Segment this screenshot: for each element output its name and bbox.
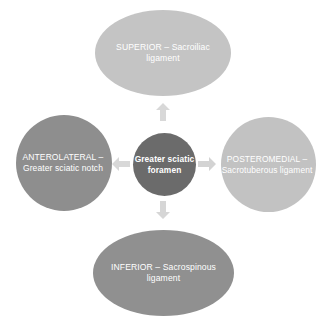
node-inferior[interactable]: INFERIOR – Sacrospinous ligament (93, 230, 234, 316)
node-superior-label: SUPERIOR – Sacroiliac ligament (95, 42, 231, 64)
node-inferior-label: INFERIOR – Sacrospinous ligament (93, 262, 234, 284)
node-center-label: Greater sciatic foramen (133, 154, 196, 176)
arrow-down-icon (155, 201, 171, 219)
node-posteromedial[interactable]: POSTEROMEDIAL – Sacrotuberous ligament (221, 117, 316, 212)
node-superior[interactable]: SUPERIOR – Sacroiliac ligament (95, 10, 231, 96)
node-anterolateral-label: ANTEROLATERAL – Greater sciatic notch (14, 152, 112, 174)
arrow-right-icon (198, 156, 216, 172)
arrow-left-icon (112, 156, 130, 172)
relationship-diagram: SUPERIOR – Sacroiliac ligament ANTEROLAT… (0, 0, 325, 321)
node-anterolateral[interactable]: ANTEROLATERAL – Greater sciatic notch (16, 115, 112, 211)
node-posteromedial-label: POSTEROMEDIAL – Sacrotuberous ligament (218, 154, 316, 176)
node-center-greater-sciatic-foramen[interactable]: Greater sciatic foramen (133, 133, 196, 196)
arrow-up-icon (155, 103, 171, 121)
